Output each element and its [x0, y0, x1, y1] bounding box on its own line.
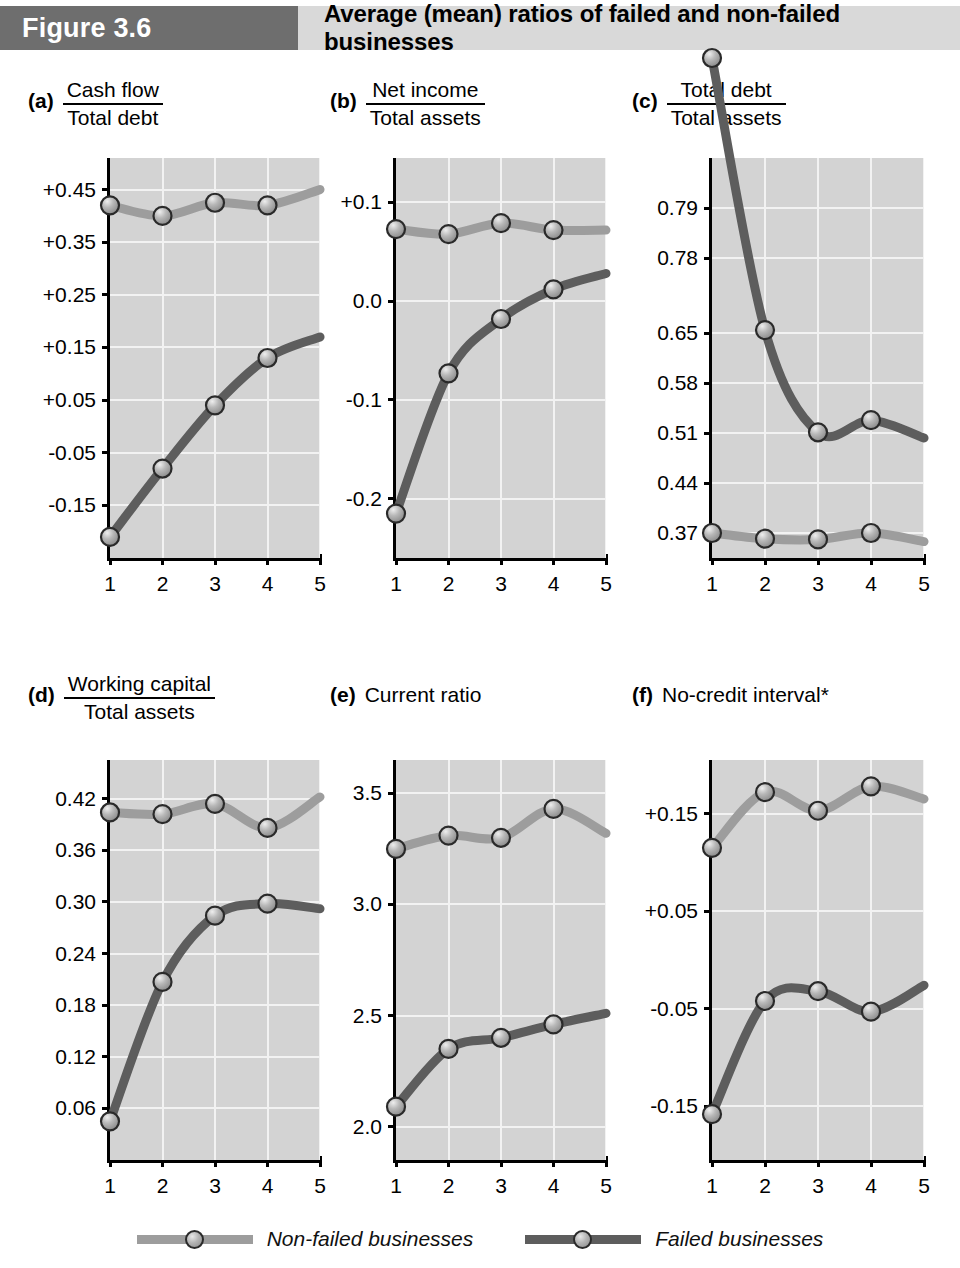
data-point-marker-non-failed [440, 827, 458, 845]
series-layer-b [396, 158, 606, 558]
y-tick-label: -0.15 [626, 1094, 698, 1118]
series-layer-f [712, 760, 924, 1160]
x-tick-label: 2 [443, 1174, 455, 1198]
data-point-marker-failed [492, 1029, 510, 1047]
y-tick-label: 0.12 [22, 1045, 96, 1069]
y-tick-label: 0.44 [626, 471, 698, 495]
y-tick-label: 0.65 [626, 321, 698, 345]
x-tick-label: 5 [314, 572, 326, 596]
data-point-marker-failed [101, 528, 119, 546]
y-tick-label: -0.05 [22, 441, 96, 465]
series-layer-c [712, 158, 924, 558]
data-point-marker-non-failed [206, 194, 224, 212]
panel-caption-c: (c)Total debtTotal assets [632, 78, 786, 129]
series-line-failed [110, 904, 320, 1122]
data-point-marker-failed [440, 364, 458, 382]
plot-area-a [110, 158, 320, 558]
data-point-marker-failed [492, 310, 510, 328]
panel-title-denominator: Total assets [366, 103, 485, 130]
series-layer-d [110, 760, 320, 1160]
x-tick-label: 4 [548, 1174, 560, 1198]
x-tick-label: 4 [262, 1174, 274, 1198]
series-line-failed [110, 337, 320, 537]
plot-area-b [396, 158, 606, 558]
panel-title-numerator: Cash flow [63, 78, 163, 103]
panel-title-denominator: Total assets [64, 697, 215, 724]
data-point-marker-failed [862, 1003, 880, 1021]
panel-caption-d: (d)Working capitalTotal assets [28, 672, 215, 723]
panel-tag-c: (c) [632, 78, 658, 113]
legend-label-failed: Failed businesses [655, 1227, 823, 1251]
panel-tag-f: (f) [632, 672, 653, 707]
y-tick-label: 2.5 [324, 1004, 382, 1028]
panel-title-a: Cash flowTotal debt [63, 78, 163, 129]
data-point-marker-non-failed [387, 840, 405, 858]
panel-title-f: No-credit interval* [662, 672, 829, 707]
panel-tag-b: (b) [330, 78, 357, 113]
data-point-marker-failed [862, 411, 880, 429]
panel-tag-a: (a) [28, 78, 54, 113]
y-tick-label: 2.0 [324, 1115, 382, 1139]
panel-caption-e: (e)Current ratio [330, 672, 481, 707]
y-tick-label: +0.45 [22, 178, 96, 202]
x-tick-label: 1 [390, 1174, 402, 1198]
x-tick-label: 2 [759, 1174, 771, 1198]
data-point-marker-non-failed [809, 530, 827, 548]
legend-label-non-failed: Non-failed businesses [267, 1227, 474, 1251]
y-tick-label: +0.15 [22, 335, 96, 359]
y-tick-label: 0.79 [626, 196, 698, 220]
x-tick-label: 3 [812, 572, 824, 596]
data-point-marker-failed [206, 907, 224, 925]
data-point-marker-failed [703, 49, 721, 67]
data-point-marker-non-failed [545, 800, 563, 818]
data-point-marker-failed [703, 1105, 721, 1123]
data-point-marker-non-failed [862, 777, 880, 795]
y-tick-label: +0.1 [324, 190, 382, 214]
y-tick-label: 0.30 [22, 890, 96, 914]
data-point-marker-failed [809, 982, 827, 1000]
y-tick-label: 3.5 [324, 781, 382, 805]
data-point-marker-failed [387, 505, 405, 523]
x-tick-label: 3 [209, 1174, 221, 1198]
data-point-marker-failed [809, 423, 827, 441]
panel-tag-e: (e) [330, 672, 356, 707]
plot-area-c [712, 158, 924, 558]
chart-legend: Non-failed businesses Failed businesses [0, 1222, 960, 1256]
plot-area-d [110, 760, 320, 1160]
legend-marker-icon [185, 1230, 204, 1249]
legend-item-non-failed: Non-failed businesses [137, 1227, 474, 1251]
y-tick-label: 0.58 [626, 371, 698, 395]
y-tick-label: 0.06 [22, 1096, 96, 1120]
x-axis-line [393, 1160, 606, 1163]
y-tick-label: 0.24 [22, 942, 96, 966]
data-point-marker-failed [154, 973, 172, 991]
legend-swatch-failed [525, 1228, 641, 1250]
y-tick-label: -0.1 [324, 388, 382, 412]
data-point-marker-non-failed [440, 225, 458, 243]
series-line-failed [396, 1013, 606, 1106]
data-point-marker-non-failed [703, 524, 721, 542]
x-tick-label: 4 [548, 572, 560, 596]
panel-title-b: Net incomeTotal assets [366, 78, 485, 129]
data-point-marker-non-failed [206, 795, 224, 813]
data-point-marker-non-failed [492, 214, 510, 232]
figure-title: Average (mean) ratios of failed and non-… [298, 6, 960, 50]
data-point-marker-failed [206, 396, 224, 414]
x-axis-line [107, 1160, 320, 1163]
y-tick-label: +0.35 [22, 230, 96, 254]
data-point-marker-failed [154, 460, 172, 478]
x-tick-label: 3 [812, 1174, 824, 1198]
x-tick-label: 5 [600, 1174, 612, 1198]
data-point-marker-failed [756, 321, 774, 339]
legend-item-failed: Failed businesses [525, 1227, 823, 1251]
legend-marker-icon [573, 1230, 592, 1249]
x-tick-label: 1 [104, 1174, 116, 1198]
y-tick-label: +0.05 [22, 388, 96, 412]
y-tick-label: -0.2 [324, 487, 382, 511]
panel-title-d: Working capitalTotal assets [64, 672, 215, 723]
data-point-marker-failed [259, 349, 277, 367]
x-tick-label: 1 [706, 572, 718, 596]
x-tick-label: 3 [209, 572, 221, 596]
figure-number-badge: Figure 3.6 [0, 6, 298, 50]
data-point-marker-non-failed [101, 803, 119, 821]
